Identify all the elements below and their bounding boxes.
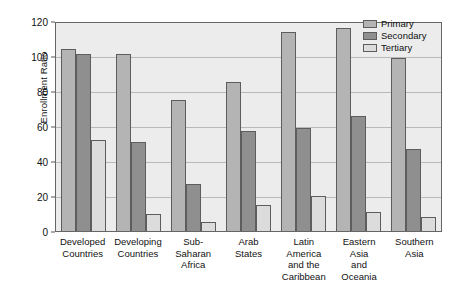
x-tick-label-line: Latin <box>277 236 330 248</box>
x-tick-label: DevelopingCountries <box>110 236 165 282</box>
y-tick-label: 60 <box>37 122 48 133</box>
legend-label: Secondary <box>381 30 426 41</box>
bar-primary <box>226 82 241 231</box>
legend-swatch-icon <box>363 32 377 40</box>
y-tick-label: 100 <box>31 52 48 63</box>
legend-item-secondary: Secondary <box>363 30 426 41</box>
y-tick-label: 40 <box>37 157 48 168</box>
legend-label: Tertiary <box>381 42 412 53</box>
bar-tertiary <box>366 212 381 231</box>
bar-tertiary <box>421 217 436 231</box>
x-tick-label: DevelopedCountries <box>55 236 110 282</box>
bar-secondary <box>186 184 201 231</box>
bar-tertiary <box>201 222 216 231</box>
bar-primary <box>391 58 406 231</box>
bar-secondary <box>296 128 311 231</box>
legend-item-tertiary: Tertiary <box>363 42 426 53</box>
bar-primary <box>116 54 131 231</box>
x-tick-label-line: Developing <box>111 236 164 248</box>
bar-group <box>221 23 276 231</box>
x-tick-label-line: Eastern Asia <box>332 236 385 259</box>
x-tick-label: SouthernAsia <box>387 236 442 282</box>
y-tick-label: 80 <box>37 87 48 98</box>
x-tick-label: LatinAmericaand theCaribbean <box>276 236 331 282</box>
x-tick-label-line: Arab <box>222 236 275 248</box>
y-tick-label: 20 <box>37 192 48 203</box>
x-tick-label-line: Caribbean <box>277 271 330 283</box>
bar-secondary <box>241 131 256 231</box>
x-tick-label-line: and Oceania <box>332 259 385 282</box>
x-tick-label-line: Countries <box>56 248 109 260</box>
bar-group <box>386 23 441 231</box>
bar-group <box>111 23 166 231</box>
bar-secondary <box>131 142 146 231</box>
x-tick-label: Sub-SaharanAfrica <box>166 236 221 282</box>
x-axis-labels: DevelopedCountriesDevelopingCountriesSub… <box>55 236 442 282</box>
bar-primary <box>171 100 186 231</box>
x-tick-label-line: Southern <box>388 236 441 248</box>
x-tick-label-line: Sub-Saharan <box>167 236 220 259</box>
plot-area <box>55 22 442 232</box>
y-tick-label: 120 <box>31 17 48 28</box>
x-tick-label-line: States <box>222 248 275 260</box>
legend-item-primary: Primary <box>363 18 426 29</box>
bar-chart: Enrollment Ratio 020406080100120 Develop… <box>0 0 460 300</box>
bar-tertiary <box>311 196 326 231</box>
bar-tertiary <box>256 205 271 231</box>
x-tick-label-line: Asia <box>388 248 441 260</box>
x-tick-label-line: and the <box>277 259 330 271</box>
bar-secondary <box>406 149 421 231</box>
x-tick-label-line: America <box>277 248 330 260</box>
x-tick-label-line: Countries <box>111 248 164 260</box>
y-tick-label: 0 <box>42 227 48 238</box>
bar-primary <box>281 32 296 232</box>
bar-tertiary <box>146 214 161 232</box>
bar-group <box>276 23 331 231</box>
legend: PrimarySecondaryTertiary <box>363 18 426 53</box>
bar-primary <box>61 49 76 231</box>
bar-group <box>331 23 386 231</box>
legend-swatch-icon <box>363 44 377 52</box>
bar-secondary <box>76 54 91 231</box>
x-tick-label-line: Developed <box>56 236 109 248</box>
bar-group <box>166 23 221 231</box>
bar-secondary <box>351 116 366 232</box>
bars-layer <box>56 23 441 231</box>
bar-primary <box>336 28 351 231</box>
y-axis-ticks: 020406080100120 <box>22 22 48 232</box>
bar-tertiary <box>91 140 106 231</box>
legend-swatch-icon <box>363 20 377 28</box>
bar-group <box>56 23 111 231</box>
x-tick-label-line: Africa <box>167 259 220 271</box>
legend-label: Primary <box>381 18 414 29</box>
x-tick-label: Eastern Asiaand Oceania <box>331 236 386 282</box>
x-tick-label: ArabStates <box>221 236 276 282</box>
